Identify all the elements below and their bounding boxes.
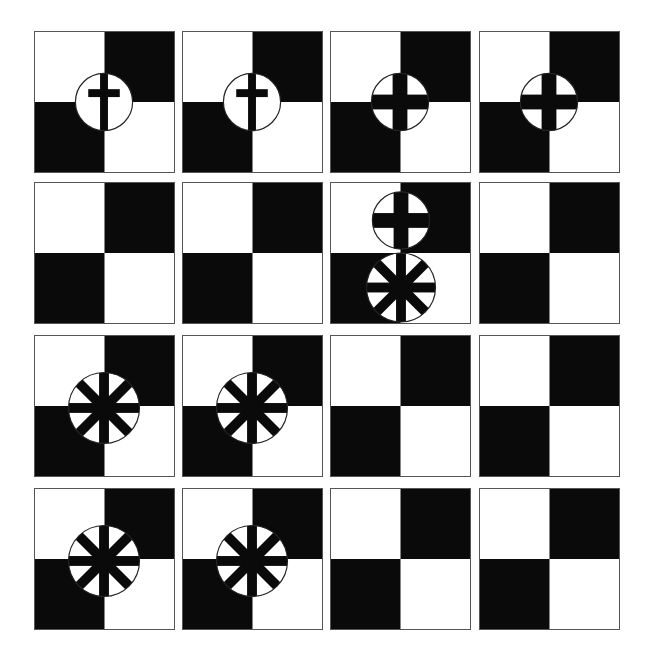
checkerboard-graphic [480,336,619,476]
checker-tile [182,31,323,173]
checkerboard-graphic [480,32,619,172]
checker-tile [182,488,323,630]
checkerboard-graphic [331,489,470,629]
checker-tile [34,335,175,477]
checkerboard-graphic [183,489,322,629]
checker-tile [330,31,471,173]
checker-tile [479,335,620,477]
checker-tile [182,335,323,477]
checkerboard-graphic [183,336,322,476]
checkerboard-graphic [331,336,470,476]
checker-tile [34,182,175,324]
checkerboard-graphic [35,183,174,323]
checkerboard-graphic [35,489,174,629]
checker-tile [182,182,323,324]
checkerboard-graphic [480,183,619,323]
checkerboard-graphic [35,32,174,172]
checker-tile [34,31,175,173]
checker-tile [330,488,471,630]
checkerboard-graphic [331,183,470,323]
checker-tile [479,182,620,324]
checker-tile [479,488,620,630]
checker-tile [479,31,620,173]
checkerboard-graphic [183,183,322,323]
checkerboard-graphic [480,489,619,629]
checkerboard-graphic [183,32,322,172]
checker-tile [330,335,471,477]
checkerboard-graphic [35,336,174,476]
checkerboard-graphic [331,32,470,172]
checker-tile [34,488,175,630]
checker-tile [330,182,471,324]
